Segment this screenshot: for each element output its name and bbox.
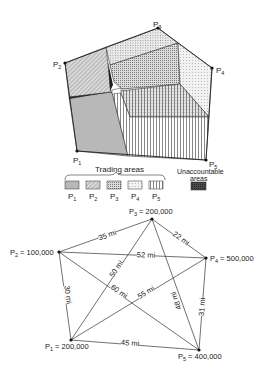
trading-areas-figure: P1 P2 P3 P4 P5 Trading areas P1 P2 P3 P4… bbox=[0, 0, 266, 378]
edge-label-p1-p5: 45 mi bbox=[121, 338, 140, 348]
edge-label-p2-p3: 35 mi bbox=[97, 228, 118, 243]
node-label-p3: P3= 200,000 bbox=[129, 207, 173, 217]
edge-label-p1-p2: 30 mi bbox=[62, 285, 74, 305]
legend-title-unaccountable: Unaccountable bbox=[177, 168, 224, 175]
node-label-p2: P2= 100,000 bbox=[10, 248, 54, 258]
node-p2 bbox=[57, 250, 60, 253]
point-label-p1: P1 bbox=[73, 156, 81, 166]
trading-areas-map: P1 P2 P3 P4 P5 bbox=[53, 20, 224, 170]
point-label-p4: P4 bbox=[216, 66, 224, 76]
edge-label-p4-p5: 31 mi bbox=[197, 297, 207, 316]
legend-title-trading-areas: Trading areas bbox=[95, 165, 144, 174]
legend-label-p3: P3 bbox=[110, 192, 118, 202]
edge-label-p2-p4: 52 mi bbox=[137, 250, 156, 260]
legend-swatch-unaccountable bbox=[191, 182, 206, 190]
legend-bracket bbox=[65, 172, 165, 180]
legend-swatch-p5 bbox=[149, 181, 163, 189]
node-p3 bbox=[150, 217, 153, 220]
edge-labels: 35 mi 22 mi 52 mi 50 mi 60 mi 55 mi 48 m… bbox=[62, 228, 207, 349]
edge-label-p3-p4: 22 mi bbox=[171, 229, 191, 247]
legend: Trading areas P1 P2 P3 P4 P5 Unaccountab… bbox=[65, 165, 224, 202]
legend-label-p2: P2 bbox=[89, 192, 97, 202]
point-label-p3: P3 bbox=[153, 20, 161, 30]
node-p4 bbox=[204, 256, 207, 259]
legend-swatch-p1 bbox=[65, 181, 79, 189]
node-label-p4: P4= 500,000 bbox=[210, 254, 254, 264]
node-label-p1: P1= 200,000 bbox=[45, 342, 89, 352]
edge-label-p2-p5: 60 mi bbox=[109, 282, 129, 300]
legend-title-unaccountable-2: areas bbox=[190, 175, 208, 182]
legend-swatch-p3 bbox=[107, 181, 121, 189]
legend-label-p4: P4 bbox=[131, 192, 139, 202]
edge-label-p1-p3: 50 mi bbox=[107, 258, 125, 279]
legend-swatch-p4 bbox=[128, 181, 142, 189]
point-label-p2: P2 bbox=[53, 60, 61, 70]
unaccountable-area bbox=[112, 88, 121, 94]
legend-label-p5: P5 bbox=[152, 192, 160, 202]
legend-label-p1: P1 bbox=[68, 192, 76, 202]
legend-swatch-p2 bbox=[86, 181, 100, 189]
edge-p2-p4 bbox=[59, 252, 206, 258]
node-label-p5: P5= 400,000 bbox=[178, 352, 222, 362]
edge-label-p1-p4: 55 mi bbox=[136, 284, 157, 301]
